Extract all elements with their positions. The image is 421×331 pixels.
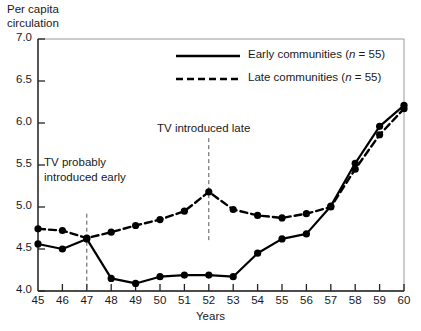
- y-tick-label: 6.5: [2, 73, 32, 85]
- x-tick-label: 50: [148, 294, 172, 306]
- legend-item-late: Late communities (n = 55): [248, 71, 381, 83]
- annotation-tv-early: TV probablyintroduced early: [44, 155, 126, 185]
- y-axis-title-line2: circulation: [7, 17, 59, 29]
- y-axis-title: Per capitacirculation: [7, 2, 59, 30]
- chart-figure: Per capitacirculation Years TV probablyi…: [0, 0, 421, 331]
- x-tick-label: 54: [246, 294, 270, 306]
- x-axis-title: Years: [0, 309, 421, 323]
- y-tick-label: 5.0: [2, 199, 32, 211]
- x-tick-label: 46: [50, 294, 74, 306]
- x-tick-label: 45: [26, 294, 50, 306]
- x-tick-label: 59: [368, 294, 392, 306]
- y-tick-label: 4.5: [2, 241, 32, 253]
- legend-early-prefix: Early communities (: [248, 48, 349, 60]
- x-tick-label: 58: [343, 294, 367, 306]
- x-tick-label: 60: [392, 294, 416, 306]
- y-tick-label: 6.0: [2, 115, 32, 127]
- y-axis-title-line1: Per capita: [7, 3, 59, 15]
- legend-late-prefix: Late communities (: [248, 71, 345, 83]
- y-tick-label: 5.5: [2, 157, 32, 169]
- x-tick-label: 49: [124, 294, 148, 306]
- x-tick-label: 52: [197, 294, 221, 306]
- x-tick-label: 57: [319, 294, 343, 306]
- x-tick-label: 56: [294, 294, 318, 306]
- legend-item-early: Early communities (n = 55): [248, 48, 385, 60]
- annotation-tv-early-line1: TV probably: [44, 156, 106, 168]
- y-tick-label: 7.0: [2, 31, 32, 43]
- legend-line-samples: [176, 56, 240, 79]
- x-tick-label: 51: [172, 294, 196, 306]
- x-tick-label: 48: [99, 294, 123, 306]
- x-axis-ticks: [62, 284, 404, 291]
- annotation-tv-late: TV introduced late: [157, 121, 250, 136]
- x-tick-label: 55: [270, 294, 294, 306]
- annotation-tv-early-line2: introduced early: [44, 171, 126, 183]
- legend-early-suffix: = 55): [355, 48, 385, 60]
- x-tick-label: 53: [221, 294, 245, 306]
- legend-late-suffix: = 55): [352, 71, 382, 83]
- x-tick-label: 47: [75, 294, 99, 306]
